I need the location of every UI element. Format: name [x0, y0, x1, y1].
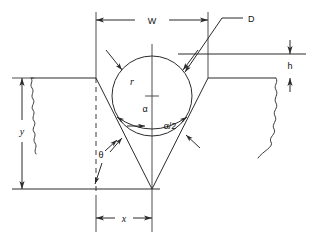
label-angle-theta: θ: [98, 150, 103, 160]
extension-lines: [96, 12, 208, 232]
dimension-D: D: [185, 14, 255, 73]
angle-theta-group: θ: [95, 140, 117, 184]
label-radius-r: r: [130, 76, 134, 87]
groove-wall-left: [96, 78, 152, 189]
label-angle-alpha-half: α/2: [164, 121, 177, 131]
dimension-W: W: [96, 16, 208, 26]
ball-pointer-arrows: [106, 50, 200, 152]
dimension-D-leader: [185, 18, 222, 72]
pointer-arrow-lower-right: [186, 135, 200, 148]
dimension-h-label: h: [287, 61, 292, 71]
dimension-x: x: [96, 213, 152, 224]
theta-leader-lower: [95, 163, 102, 184]
dimension-W-label: W: [148, 16, 157, 26]
dimension-h: h: [287, 40, 292, 92]
label-angle-alpha: α: [142, 104, 147, 114]
pointer-arrow-upper-right: [183, 50, 198, 70]
pointer-arrow-upper-left: [106, 50, 122, 70]
break-line-left: [31, 78, 36, 154]
workpiece-outline: [12, 78, 277, 189]
groove-wall-right: [152, 78, 208, 189]
vgroove-svg-canvas: W D h: [0, 0, 316, 245]
break-line-right: [258, 78, 277, 158]
dimension-D-label: D: [248, 14, 255, 24]
dimension-y: y: [12, 78, 34, 189]
vgroove-diagram: W D h: [0, 0, 316, 245]
dimension-y-label: y: [19, 126, 25, 137]
dimension-x-label: x: [121, 213, 127, 224]
